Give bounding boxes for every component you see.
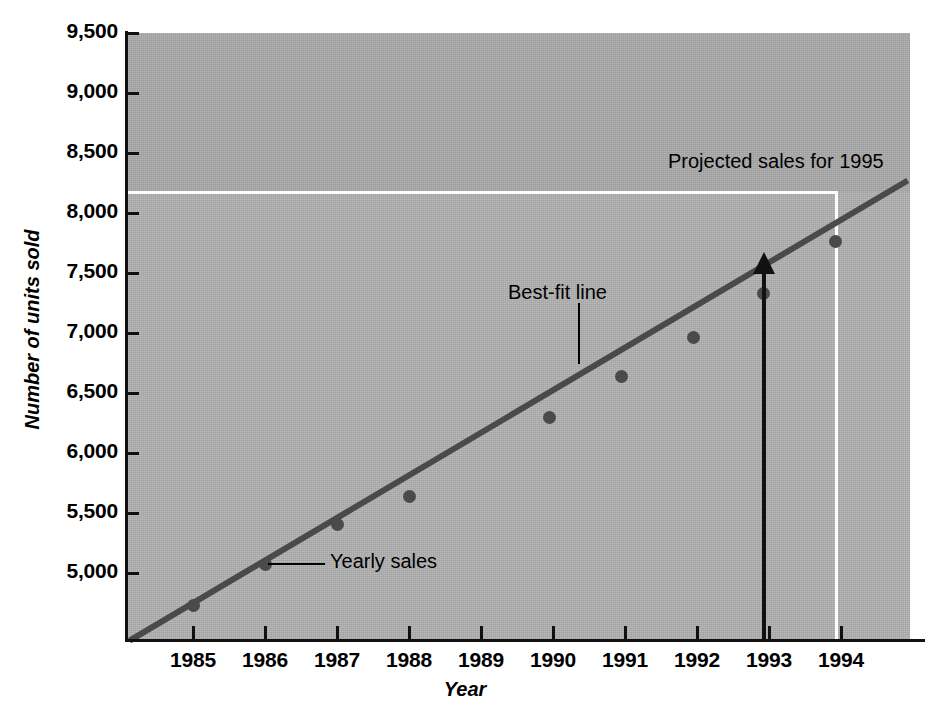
y-tick-label: 7,000: [0, 319, 118, 343]
data-point: [187, 599, 200, 612]
x-tick-label: 1988: [369, 648, 449, 672]
y-tick-label: 5,000: [0, 559, 118, 583]
y-tick-mark: [126, 512, 139, 515]
y-tick-label: 7,500: [0, 259, 118, 283]
y-axis-line: [125, 31, 128, 642]
y-tick-mark: [126, 32, 139, 35]
x-tick-mark: [192, 626, 195, 640]
data-point: [331, 518, 344, 531]
x-tick-label: 1993: [729, 648, 809, 672]
y-tick-mark: [126, 272, 139, 275]
y-tick-mark: [126, 332, 139, 335]
x-tick-mark: [480, 626, 483, 640]
y-tick-mark: [126, 212, 139, 215]
y-tick-mark: [126, 572, 139, 575]
x-tick-mark: [264, 626, 267, 640]
x-tick-label: 1991: [585, 648, 665, 672]
data-point: [543, 411, 556, 424]
data-point: [687, 331, 700, 344]
x-tick-label: 1989: [441, 648, 521, 672]
yearly-sales-leader-line: [268, 563, 325, 565]
x-tick-mark: [768, 626, 771, 640]
projection-arrow-head: [753, 252, 775, 274]
x-tick-mark: [696, 626, 699, 640]
x-tick-label: 1992: [657, 648, 737, 672]
annotation-projected-sales: Projected sales for 1995: [668, 150, 884, 173]
y-tick-label: 5,500: [0, 499, 118, 523]
x-axis-line: [125, 639, 925, 642]
x-tick-label: 1990: [513, 648, 593, 672]
x-axis-title: Year: [0, 678, 930, 701]
projection-vertical-guide: [835, 191, 838, 640]
x-tick-label: 1994: [801, 648, 881, 672]
y-axis-title: Number of units sold: [21, 180, 44, 480]
annotation-best-fit-line: Best-fit line: [508, 281, 607, 304]
projection-arrow-shaft: [762, 272, 766, 640]
chart-root: Projected sales for 1995 Best-fit line Y…: [0, 0, 930, 720]
x-tick-label: 1985: [153, 648, 233, 672]
y-tick-label: 9,500: [0, 19, 118, 43]
x-tick-label: 1986: [225, 648, 305, 672]
y-tick-label: 8,000: [0, 199, 118, 223]
x-tick-mark: [840, 626, 843, 640]
y-tick-label: 9,000: [0, 79, 118, 103]
x-tick-mark: [624, 626, 627, 640]
annotation-yearly-sales: Yearly sales: [330, 550, 437, 573]
y-tick-mark: [126, 392, 139, 395]
x-tick-label: 1987: [297, 648, 377, 672]
y-tick-mark: [126, 92, 139, 95]
x-tick-mark: [552, 626, 555, 640]
y-tick-label: 8,500: [0, 139, 118, 163]
data-point: [403, 490, 416, 503]
best-fit-leader-line: [578, 303, 580, 364]
y-tick-label: 6,000: [0, 439, 118, 463]
x-tick-mark: [408, 626, 411, 640]
y-tick-mark: [126, 452, 139, 455]
projection-horizontal-guide: [128, 191, 838, 194]
y-tick-mark: [126, 152, 139, 155]
x-tick-mark: [336, 626, 339, 640]
data-point: [615, 370, 628, 383]
y-tick-label: 6,500: [0, 379, 118, 403]
data-point: [829, 235, 842, 248]
